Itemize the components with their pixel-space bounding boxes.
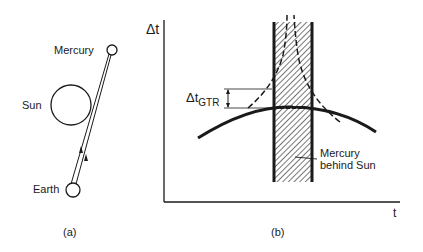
panel-a-caption: (a) <box>63 226 76 238</box>
y-axis-label: Δt <box>146 21 159 37</box>
annotation-behind-sun: behind Sun <box>320 159 376 171</box>
delta-gtr-label: ΔtGTR <box>186 90 219 108</box>
earth-circle <box>66 183 80 197</box>
diagram-canvas: Mercury Sun Earth (a) Δt t ΔtGTR Mercury… <box>0 0 423 252</box>
panel-b: Δt t ΔtGTR Mercury behind Sun (b) <box>146 15 400 238</box>
arrow-up-icon <box>79 146 83 153</box>
sun-circle <box>51 85 91 125</box>
panel-b-caption: (b) <box>271 226 284 238</box>
mercury-circle <box>107 45 117 55</box>
sun-label: Sun <box>22 99 42 111</box>
earth-label: Earth <box>33 183 59 195</box>
x-axis-label: t <box>393 206 397 220</box>
mercury-label: Mercury <box>54 44 94 56</box>
panel-a: Mercury Sun Earth (a) <box>22 44 117 238</box>
arrow-up-icon <box>84 154 88 161</box>
annotation-mercury: Mercury <box>320 147 360 159</box>
